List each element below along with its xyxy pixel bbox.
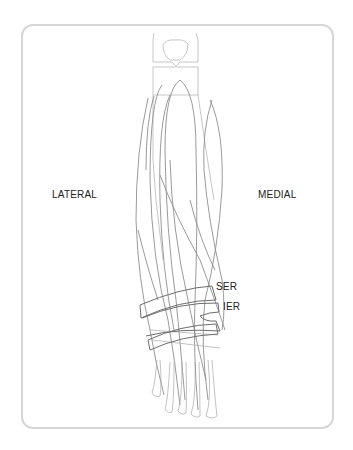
tendons — [136, 80, 225, 410]
inferior-extensor-retinaculum-upper — [142, 303, 220, 336]
toe-outlines — [150, 330, 220, 418]
label-ier: IER — [223, 301, 240, 312]
bone-outlines — [153, 33, 214, 260]
label-ser: SER — [216, 281, 237, 292]
foot-anatomy-illustration — [0, 0, 353, 450]
inferior-extensor-retinaculum-lower — [148, 324, 218, 350]
label-lateral: LATERAL — [52, 189, 97, 200]
label-medial: MEDIAL — [258, 189, 296, 200]
